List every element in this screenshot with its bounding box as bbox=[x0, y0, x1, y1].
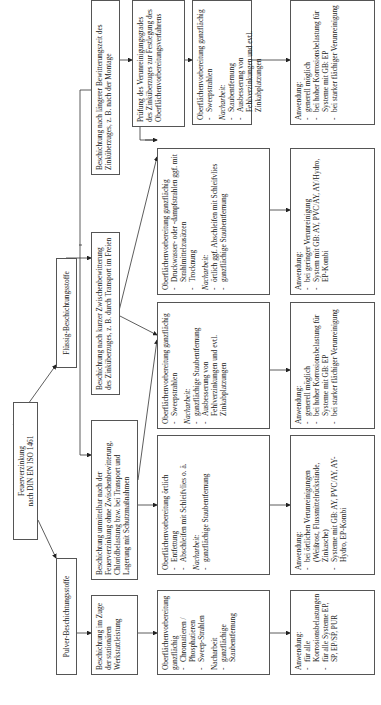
laenger-text: Beschichtung nach längerer Bewitterungsz… bbox=[95, 5, 113, 170]
root-box: Feuerverzinkung nach DIN EN ISO 1461 bbox=[13, 402, 38, 540]
anwendung-a2: Anwendung: bei geringer Verunreinigung S… bbox=[290, 148, 375, 295]
anwendung-a1: Anwendung: generell möglich bei hoher Ko… bbox=[290, 0, 375, 125]
pruefung-text: Prüfung des Verunreinigungsgrades des Zi… bbox=[136, 5, 163, 122]
branch-fluessig: Flüssig-Beschichtungsstoffe bbox=[56, 258, 77, 368]
anwendung-title: Anwendung: bbox=[294, 440, 303, 570]
anwendung-a4: Anwendung: bei örtlichen Verunreinigunge… bbox=[290, 435, 375, 575]
anwendung-title: Anwendung: bbox=[294, 5, 303, 120]
nacharbeit-label: Nacharbeit: bbox=[218, 5, 227, 120]
prep-title: Oberflächenvorbereitung ganzflächig bbox=[161, 307, 170, 424]
prep-druckwasser: Oberflächenvorbereitung ganzflächig Druc… bbox=[157, 148, 270, 295]
anwendung-title: Anwendung: bbox=[294, 307, 303, 424]
nacharbeit-item: ganzflächige Staubentfernung bbox=[201, 440, 210, 570]
root-line1: Feuerverzinkung bbox=[17, 435, 26, 506]
flowchart: Feuerverzinkung nach DIN EN ISO 1461 Flü… bbox=[0, 0, 381, 705]
prep-item: Abschleifen mit Schleifvlies o. ä. bbox=[179, 440, 188, 570]
unmittelbar-text: Beschichtung unmittelbar nach der Feuerv… bbox=[95, 425, 131, 575]
anwendung-item: generell möglich bbox=[303, 5, 312, 120]
nacharbeit-label: Nacharbeit: bbox=[183, 307, 192, 424]
nacharbeit-item: ganzflächige Staubentfernung bbox=[219, 153, 228, 290]
prep-item: Chromatieren / Phosphatieren bbox=[179, 595, 197, 670]
prep-item: Entfettung bbox=[170, 440, 179, 570]
anwendung-title: Anwendung: bbox=[294, 153, 303, 290]
nacharbeit-item: örtlich ggf. Abschleifen mit Schleifvlie… bbox=[210, 153, 219, 290]
root-line2: nach DIN EN ISO 1461 bbox=[26, 435, 35, 506]
anwendung-item: bei starker flächiger Verunreinigung bbox=[330, 5, 339, 120]
anwendung-item: bei hoher Korrosionsbelastung für System… bbox=[312, 5, 330, 120]
anwendung-item: bei geringer Verunreinigung bbox=[303, 153, 312, 290]
anwendung-a5: Anwendung: für alle Korrosionsbelastunge… bbox=[290, 590, 375, 675]
prep-item: Druckwasser- oder -dampfstrahlen ggf. mi… bbox=[170, 153, 188, 290]
nacharbeit-item: ganzflächige Staubentfernung bbox=[219, 595, 237, 670]
prep-item: Trocknung bbox=[188, 153, 197, 290]
box-unmittelbar: Beschichtung unmittelbar nach der Feuerv… bbox=[91, 420, 138, 580]
box-kurzer: Beschichtung nach kurzer Zwischenbewitte… bbox=[91, 232, 120, 395]
nacharbeit-label: Nacharbeit: bbox=[192, 440, 201, 570]
prep-sweep-nach: Oberflächenvorbereitung ganzflächig Swee… bbox=[192, 0, 252, 125]
prep-title: Oberflächenvorbereitung ganzflächig bbox=[161, 153, 170, 290]
anwendung-item: Systeme mit GB: AY, PVC/AY, AY-Hydro, EP… bbox=[330, 440, 348, 570]
anwendung-item: System mit GB: AY, PVC/AY, AY/Hydro, EP-… bbox=[312, 153, 330, 290]
prep-pulver: Oberflächenvorbereitung ganzflächig Chro… bbox=[157, 590, 270, 675]
prep-sweep-kurz: Oberflächenvorbereitung ganzflächig Swee… bbox=[157, 302, 270, 429]
branch-fluessig-label: Flüssig-Beschichtungsstoffe bbox=[62, 271, 71, 355]
box-laenger: Beschichtung nach längerer Bewitterungsz… bbox=[91, 0, 120, 175]
nacharbeit-label: Nacharbeit: bbox=[201, 153, 210, 290]
anwendung-item: für alle Korrosionsbelastungen bbox=[303, 595, 321, 670]
anwendung-item: bei starker flächiger Verunreinigung bbox=[330, 307, 339, 424]
anwendung-item: bei hoher Korrosionsbelastung für System… bbox=[312, 307, 330, 424]
anwendung-item: generell möglich bbox=[303, 307, 312, 424]
nacharbeit-label: Nacharbeit bbox=[210, 595, 219, 670]
prep-item: Sweepstrahlen bbox=[205, 5, 214, 120]
branch-pulver-label: Pulver-Beschichtungsstoffe bbox=[62, 576, 71, 657]
werkstatt-text: Beschichtung im Zuge der stationären Wer… bbox=[95, 600, 122, 670]
anwendung-title: Anwendung: bbox=[294, 595, 303, 670]
prep-item: Sweepstrahlen bbox=[170, 307, 179, 424]
anwendung-item: bei örtlichen Verunreinigungen (Weißrost… bbox=[303, 440, 330, 570]
prep-title: Oberflächenvorbereitung ganzflächig bbox=[161, 595, 179, 670]
box-pruefung: Prüfung des Verunreinigungsgrades des Zi… bbox=[132, 0, 185, 127]
box-werkstatt: Beschichtung im Zuge der stationären Wer… bbox=[91, 595, 138, 675]
kurzer-text: Beschichtung nach kurzer Zwischenbewitte… bbox=[95, 237, 113, 390]
prep-title: Oberflächenvorbereitung ganzflächig bbox=[196, 5, 205, 120]
branch-pulver: Pulver-Beschichtungsstoffe bbox=[56, 558, 77, 675]
prep-title: Oberflächenvorbereitung örtlich bbox=[161, 440, 170, 570]
prep-oertlich: Oberflächenvorbereitung örtlich Entfettu… bbox=[157, 435, 270, 575]
nacharbeit-item: ganzflächige Staubentfernung bbox=[192, 307, 201, 424]
prep-item: Sweep-Strahlen bbox=[197, 595, 206, 670]
nacharbeit-item: Staubentfernung bbox=[227, 5, 236, 120]
anwendung-item: für alle Systeme EP, SP, EP/SP, PUR bbox=[321, 595, 339, 670]
nacharbeit-item: Ausbesserung von Fehlverzinkungen und ev… bbox=[201, 307, 228, 424]
nacharbeit-item: Ausbesserung von Fehlverzinkungen und ev… bbox=[236, 5, 263, 120]
anwendung-a3: Anwendung: generell möglich bei hoher Ko… bbox=[290, 302, 375, 429]
